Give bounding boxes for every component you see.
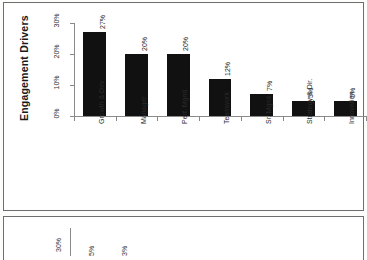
category-axis-line [74,116,366,117]
category-tick-mark [199,116,200,121]
chart-title: Engagement Drivers [18,15,30,121]
value-tick-label: 30% [53,9,60,33]
bar-value-label: 20% [141,37,148,51]
category-label: Sr. Mgmt. [265,94,272,124]
category-tick-mark [116,116,117,121]
bar-value-label: 27% [99,15,106,29]
category-label: Growth & Dev. [98,79,105,124]
category-tick-mark [283,116,284,121]
category-tick-mark [157,116,158,121]
category-label: Perf. Mgmt. [181,88,188,124]
bar-value-label: 20% [182,37,189,51]
category-tick-mark [74,116,75,121]
secondary-bar-value-label: 3% [121,246,128,256]
category-tick-mark [324,116,325,121]
category-label: Manager [140,96,147,124]
category-tick-mark [241,116,242,121]
engagement-drivers-figure: Engagement Drivers 0%10%20%30% 27%Growth… [3,2,364,211]
secondary-value-tick-label: 30% [55,238,62,252]
value-tick-label: 20% [53,40,60,64]
value-tick-label: 0% [53,102,60,126]
secondary-value-axis-line [70,228,71,256]
secondary-bar-value-label: 5% [88,246,95,256]
category-label: Teamwork [223,92,230,124]
bar-value-label: 12% [224,62,231,76]
value-tick-label: 10% [53,71,60,95]
category-label: Innovation [348,92,355,124]
category-label: Strategy & Dir. [306,79,313,124]
bar-value-label: 7% [266,81,273,91]
bar-series [74,23,366,116]
